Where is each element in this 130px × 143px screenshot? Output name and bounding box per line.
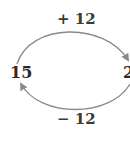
right-node-value: 2 bbox=[123, 65, 130, 81]
backward-arc-arrow bbox=[21, 84, 130, 110]
inverse-operation-diagram: + 12 15 2 − 12 bbox=[0, 0, 130, 143]
backward-operation-label: − 12 bbox=[57, 112, 96, 127]
forward-arc-arrow bbox=[17, 32, 128, 64]
left-node-value: 15 bbox=[10, 65, 32, 81]
forward-operation-label: + 12 bbox=[57, 12, 96, 27]
